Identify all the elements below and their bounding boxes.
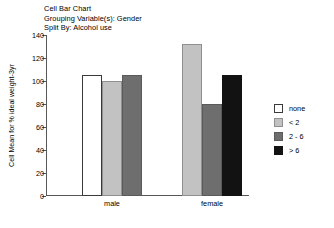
bar-male-2-6 <box>122 75 142 196</box>
legend-item-label: 2 - 6 <box>289 132 304 141</box>
legend-swatch-icon <box>274 146 283 155</box>
bar-female-2-6 <box>202 104 222 196</box>
bar-female-lt-2 <box>182 44 202 196</box>
legend-item-label: > 6 <box>289 146 299 155</box>
x-axis-label-male: male <box>104 199 120 208</box>
legend-item-none[interactable]: none <box>274 101 305 115</box>
legend-item-gt-6[interactable]: > 6 <box>274 143 305 157</box>
bar-male-none <box>82 75 102 196</box>
legend: none< 22 - 6> 6 <box>274 101 305 157</box>
legend-swatch-icon <box>274 132 283 141</box>
y-axis-tick-label: 80 <box>36 100 44 109</box>
legend-swatch-icon <box>274 118 283 127</box>
legend-item-2-6[interactable]: 2 - 6 <box>274 129 305 143</box>
chart-subtitle-grouping: Grouping Variable(s): Gender <box>44 14 142 24</box>
legend-item-label: < 2 <box>289 118 299 127</box>
bar-female-gt-6 <box>222 75 242 196</box>
y-axis-tick-label: 60 <box>36 123 44 132</box>
legend-swatch-icon <box>274 104 283 113</box>
plot-area: 020406080100120140 malefemale <box>46 35 249 196</box>
x-axis-label-female: female <box>201 199 223 208</box>
bar-male-lt-2 <box>102 81 122 196</box>
y-axis-tick-label: 0 <box>40 192 44 201</box>
chart-title-block: Cell Bar Chart Grouping Variable(s): Gen… <box>44 4 142 33</box>
legend-item-lt-2[interactable]: < 2 <box>274 115 305 129</box>
y-axis-tick-label: 100 <box>32 77 44 86</box>
y-axis-tick-label: 40 <box>36 146 44 155</box>
y-axis-tick-label: 20 <box>36 169 44 178</box>
y-axis-line <box>46 35 47 196</box>
chart-subtitle-split: Split By: Alcohol use <box>44 23 142 33</box>
cell-bar-chart: Cell Bar Chart Grouping Variable(s): Gen… <box>0 0 334 228</box>
y-axis-title: Cell Mean for % ideal weight-3yr <box>8 35 18 196</box>
y-axis-tick-label: 120 <box>32 54 44 63</box>
y-axis-tick-label: 140 <box>32 31 44 40</box>
chart-title: Cell Bar Chart <box>44 4 142 14</box>
legend-item-label: none <box>289 104 305 113</box>
